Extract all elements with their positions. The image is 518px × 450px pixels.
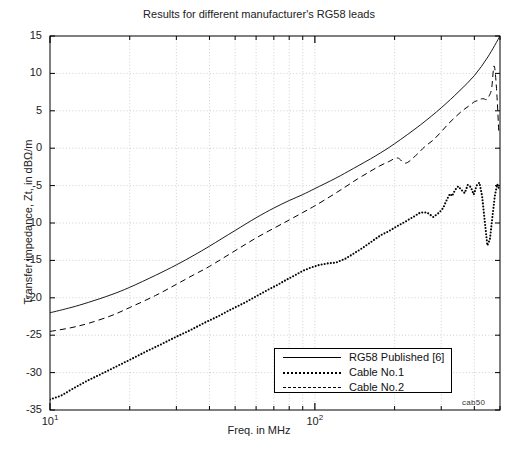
y-tick-label: 5 (8, 104, 42, 116)
y-tick-label: -10 (8, 216, 42, 228)
figure-stamp: cab50 (462, 398, 485, 407)
x-tick-label: 102 (295, 413, 335, 427)
y-tick-label: -30 (8, 366, 42, 378)
y-tick-label: -20 (8, 291, 42, 303)
legend-label: RG58 Published [6] (349, 350, 444, 365)
x-tick-label: 101 (30, 413, 70, 427)
legend-item[interactable]: RG58 Published [6] (275, 350, 453, 365)
y-tick-label: -5 (8, 179, 42, 191)
legend-item[interactable]: Cable No.2 (275, 380, 453, 395)
chart-legend[interactable]: RG58 Published [6]Cable No.1Cable No.2 (274, 348, 452, 393)
y-tick-label: -15 (8, 253, 42, 265)
y-tick-label: 0 (8, 141, 42, 153)
legend-swatch-dotted (283, 372, 341, 375)
legend-item[interactable]: Cable No.1 (275, 365, 453, 380)
chart-figure: Results for different manufacturer's RG5… (0, 0, 518, 450)
legend-swatch-solid (283, 357, 341, 359)
legend-label: Cable No.1 (349, 365, 404, 380)
y-tick-label: 10 (8, 66, 42, 78)
legend-label: Cable No.2 (349, 380, 404, 395)
y-tick-label: -25 (8, 328, 42, 340)
y-tick-label: 15 (8, 29, 42, 41)
legend-swatch-dashed (283, 387, 341, 389)
